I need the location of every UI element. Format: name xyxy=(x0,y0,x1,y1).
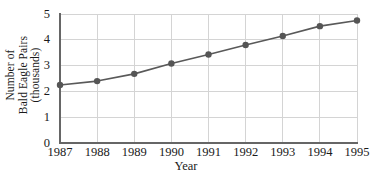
x-axis-label: Year xyxy=(0,160,372,173)
x-tick-label: 1987 xyxy=(48,146,73,159)
x-tick-label: 1991 xyxy=(196,146,221,159)
x-tick-label: 1993 xyxy=(270,146,295,159)
x-tick-label: 1989 xyxy=(122,146,147,159)
chart-figure: Number of Bald Eagle Pairs (thousands) 0… xyxy=(0,0,372,176)
x-tick-label: 1992 xyxy=(233,146,258,159)
x-tick-label: 1994 xyxy=(307,146,332,159)
x-tick-label: 1995 xyxy=(345,146,370,159)
x-tick-label: 1988 xyxy=(85,146,110,159)
vertical-gridlines xyxy=(97,14,357,143)
x-tick-label: 1990 xyxy=(159,146,184,159)
